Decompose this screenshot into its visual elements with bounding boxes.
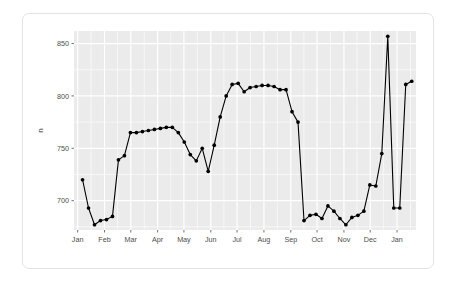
x-axis-tick-label: Sep — [284, 235, 297, 244]
data-point — [308, 213, 312, 217]
data-point — [356, 213, 360, 217]
x-axis-tick-label: Dec — [364, 235, 377, 244]
x-axis-tick-label: Feb — [98, 235, 110, 244]
x-axis-ticks — [78, 230, 397, 233]
data-point — [212, 143, 216, 147]
x-axis-tick-label: Jan — [391, 235, 403, 244]
x-axis-tick-label: Jul — [232, 235, 242, 244]
data-point — [87, 206, 91, 210]
data-point — [248, 86, 252, 90]
y-axis-ticks — [72, 44, 75, 201]
data-point — [338, 217, 342, 221]
data-point — [314, 212, 318, 216]
data-point — [326, 204, 330, 208]
data-point — [129, 131, 133, 135]
data-point — [111, 215, 115, 219]
data-point — [254, 85, 258, 89]
y-axis-tick-label: 800 — [57, 92, 69, 101]
line-chart-svg: 700750800850 JanFebMarAprMayJunJulAugSep… — [23, 14, 435, 270]
data-point — [164, 126, 168, 130]
data-point — [350, 216, 354, 220]
data-point — [230, 83, 234, 87]
data-point — [266, 84, 270, 88]
data-point — [182, 140, 186, 144]
data-point — [194, 159, 198, 163]
data-point — [296, 120, 300, 124]
data-point — [218, 115, 222, 119]
data-point — [410, 79, 414, 83]
data-point — [290, 110, 294, 114]
data-point — [260, 84, 264, 88]
data-point — [302, 219, 306, 223]
y-axis-tick-label: 700 — [57, 196, 69, 205]
data-point — [320, 217, 324, 221]
data-point — [170, 126, 174, 130]
data-point — [159, 127, 163, 131]
data-point — [206, 170, 210, 174]
data-point — [368, 183, 372, 187]
data-point — [386, 34, 390, 38]
y-axis-title: n — [36, 128, 45, 132]
chart-plot-area: 700750800850 JanFebMarAprMayJunJulAugSep… — [23, 14, 435, 270]
data-point — [272, 85, 276, 89]
data-point — [362, 209, 366, 213]
data-point — [392, 206, 396, 210]
y-axis-tick-labels: 700750800850 — [57, 39, 69, 205]
data-point — [117, 158, 121, 162]
data-point — [344, 223, 348, 227]
data-point — [404, 83, 408, 87]
y-axis-tick-label: 850 — [57, 39, 69, 48]
x-axis-tick-label: Jan — [72, 235, 84, 244]
data-point — [147, 129, 151, 133]
data-point — [105, 218, 109, 222]
data-point — [284, 88, 288, 92]
data-point — [123, 154, 127, 158]
data-point — [224, 94, 228, 98]
data-point — [153, 128, 157, 132]
data-point — [380, 152, 384, 156]
data-point — [236, 82, 240, 86]
data-point — [93, 223, 97, 227]
data-point — [141, 130, 145, 134]
data-point — [332, 209, 336, 213]
data-point — [99, 219, 103, 223]
data-point — [242, 90, 246, 94]
x-axis-tick-label: May — [177, 235, 191, 244]
data-point — [374, 184, 378, 188]
x-axis-tick-label: Mar — [125, 235, 138, 244]
data-point — [81, 178, 85, 182]
x-axis-tick-label: Aug — [258, 235, 271, 244]
x-axis-tick-label: Oct — [311, 235, 322, 244]
x-axis-tick-label: Nov — [338, 235, 351, 244]
x-axis-tick-labels: JanFebMarAprMayJunJulAugSepOctNovDecJan — [72, 235, 403, 244]
y-axis-tick-label: 750 — [57, 144, 69, 153]
chart-card: 700750800850 JanFebMarAprMayJunJulAugSep… — [22, 13, 434, 269]
data-point — [278, 88, 282, 92]
x-axis-tick-label: Apr — [152, 235, 164, 244]
data-point — [135, 131, 139, 135]
data-point — [200, 146, 204, 150]
data-point — [398, 206, 402, 210]
data-point — [176, 131, 180, 135]
x-axis-tick-label: Jun — [205, 235, 217, 244]
data-point — [188, 153, 192, 157]
